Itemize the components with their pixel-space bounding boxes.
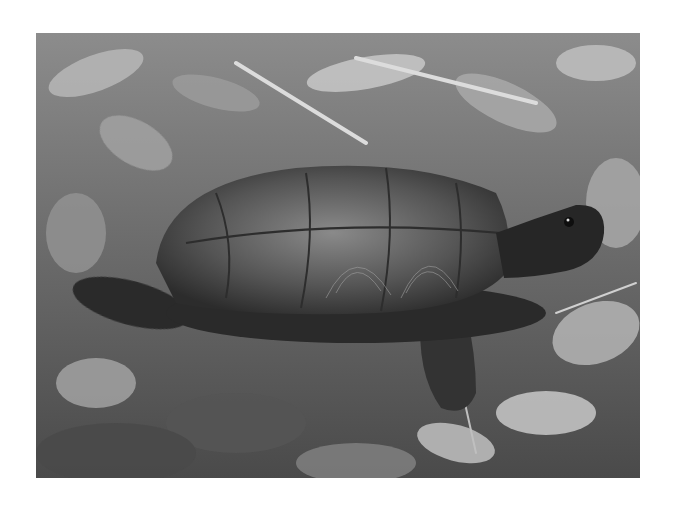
turtle-photo (36, 33, 640, 478)
turtle-eye (564, 217, 574, 227)
photo-canvas (36, 33, 640, 478)
